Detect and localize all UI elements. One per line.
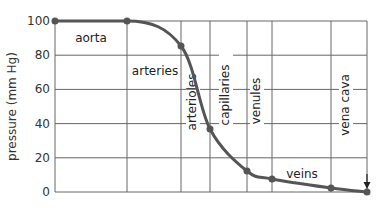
y-tick-label: 0 bbox=[42, 185, 50, 199]
region-labels: aortaarteriesarteriolescapillariesvenule… bbox=[75, 31, 353, 181]
region-label-veins: veins bbox=[286, 167, 318, 181]
arrow-down-icon bbox=[364, 174, 371, 189]
region-label-arteries: arteries bbox=[132, 64, 178, 78]
pressure-chart: 020406080100 pressure (mm Hg) aortaarter… bbox=[0, 0, 388, 208]
y-tick-label: 80 bbox=[35, 48, 50, 62]
region-label-aorta: aorta bbox=[75, 31, 107, 45]
y-axis-ticks: 020406080100 bbox=[27, 14, 50, 199]
data-point bbox=[124, 18, 131, 25]
y-tick-label: 60 bbox=[35, 82, 50, 96]
data-point bbox=[52, 18, 59, 25]
y-tick-label: 20 bbox=[35, 151, 50, 165]
y-axis-label: pressure (mm Hg) bbox=[5, 52, 19, 161]
pressure-curve bbox=[55, 21, 367, 192]
data-point bbox=[269, 176, 276, 183]
y-tick-label: 100 bbox=[27, 14, 50, 28]
region-label-capillaries: capillaries bbox=[218, 65, 232, 126]
data-point bbox=[244, 168, 251, 175]
data-point bbox=[328, 185, 335, 192]
data-point bbox=[207, 126, 214, 133]
data-point bbox=[178, 43, 185, 50]
data-point bbox=[364, 189, 371, 196]
region-label-vena-cava: vena cava bbox=[338, 74, 352, 136]
y-tick-label: 40 bbox=[35, 117, 50, 131]
region-label-venules: venules bbox=[249, 78, 263, 125]
grid-lines bbox=[55, 21, 367, 192]
